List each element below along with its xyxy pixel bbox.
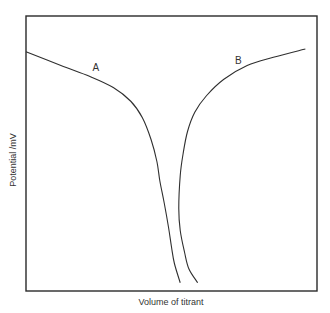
x-axis-label: Volume of titrant xyxy=(138,297,204,307)
series-line-a xyxy=(26,52,180,283)
series-line-b xyxy=(179,49,306,283)
series-layer xyxy=(26,49,305,283)
y-axis-label: Potential /mV xyxy=(8,133,18,187)
annotation-layer: A B xyxy=(93,55,243,73)
curve-label-a: A xyxy=(93,62,100,73)
curve-label-b: B xyxy=(235,55,242,66)
titration-chart: A B Volume of titrant Potential /mV xyxy=(0,0,330,313)
